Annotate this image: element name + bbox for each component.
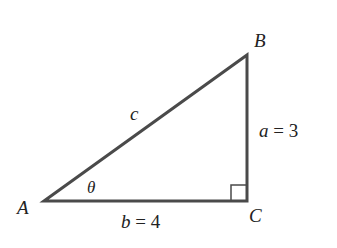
vertex-label-c: C [249, 205, 262, 226]
vertex-label-b: B [254, 30, 266, 51]
side-label-a: a = 3 [259, 120, 298, 141]
right-angle-marker [231, 185, 247, 201]
triangle-diagram: A B C c θ a = 3 b = 4 [0, 0, 337, 248]
side-label-c: c [130, 103, 139, 124]
angle-label-theta: θ [87, 178, 95, 197]
side-label-b: b = 4 [121, 211, 161, 232]
triangle-abc [44, 55, 247, 201]
vertex-label-a: A [15, 197, 29, 218]
